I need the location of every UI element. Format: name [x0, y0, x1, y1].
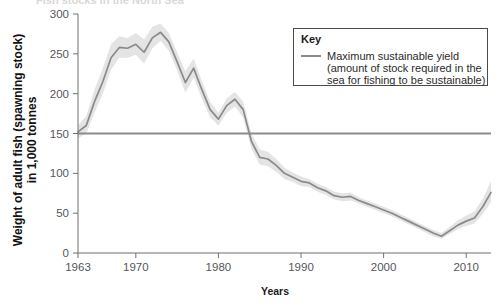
- y-axis-tick-label: 50: [56, 207, 69, 219]
- x-axis: 196319701980199020002010: [65, 253, 491, 273]
- y-axis-tick-label: 150: [50, 128, 69, 140]
- y-axis-title-line-2: in 1,000 tonnes: [25, 96, 39, 183]
- legend-entry-line-3: sea for fishing to be sustainable): [327, 74, 485, 86]
- x-axis-ticks: 196319701980199020002010: [65, 253, 479, 273]
- x-axis-tick-label: 1963: [65, 261, 91, 273]
- x-axis-tick-label: 1990: [288, 261, 314, 273]
- x-axis-tick-label: 1980: [206, 261, 232, 273]
- y-axis-tick-label: 300: [50, 8, 69, 20]
- y-axis-tick-label: 250: [50, 48, 69, 60]
- line-chart-canvas: 050100150200250300 196319701980199020002…: [0, 0, 498, 307]
- x-axis-tick-label: 1970: [123, 261, 149, 273]
- y-axis-tick-label: 100: [50, 167, 69, 179]
- x-axis-tick-label: 2000: [371, 261, 397, 273]
- legend-title: Key: [301, 33, 322, 45]
- y-axis-ticks: 050100150200250300: [50, 8, 78, 259]
- legend: Key Maximum sustainable yield (amount of…: [294, 29, 488, 87]
- legend-entry-line-2: (amount of stock required in the: [327, 62, 482, 74]
- y-axis-title-group: Weight of adult fish (spawning stock) in…: [11, 34, 39, 246]
- y-axis-tick-label: 0: [63, 247, 69, 259]
- y-axis-tick-label: 200: [50, 88, 69, 100]
- legend-entry-line-1: Maximum sustainable yield: [327, 50, 459, 62]
- x-axis-tick-label: 2010: [453, 261, 479, 273]
- x-axis-title: Years: [261, 285, 289, 297]
- y-axis: 050100150200250300: [50, 8, 78, 259]
- chart-figure: Fish stocks in the North Sea 05010015020…: [0, 0, 498, 307]
- y-axis-title-line-1: Weight of adult fish (spawning stock): [11, 34, 25, 246]
